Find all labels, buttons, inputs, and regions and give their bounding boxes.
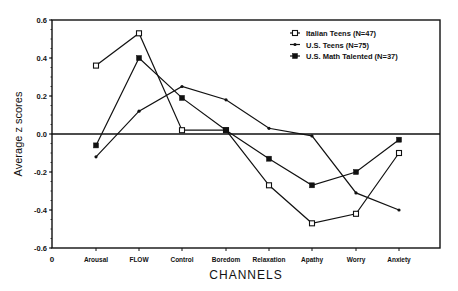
y-tick-label: 0.4 <box>37 54 48 63</box>
y-tick-label: -0.4 <box>34 206 48 215</box>
y-tick-label: -0.6 <box>34 244 47 253</box>
x-tick-label: Worry <box>347 256 366 264</box>
legend-item: U.S. Teens (N=75) <box>290 41 370 50</box>
x-axis-label: CHANNELS <box>209 268 282 282</box>
y-tick-label: 0.0 <box>37 130 47 139</box>
y-tick-label: -0.2 <box>34 168 47 177</box>
x-origin-label: 0 <box>50 255 55 264</box>
legend-item: U.S. Math Talented (N=37) <box>290 52 398 61</box>
x-axis: ArousalFLOWControlBoredomRelaxationApath… <box>84 248 411 264</box>
x-tick-label: Boredom <box>212 256 241 263</box>
y-tick-label: 0.2 <box>37 92 47 101</box>
line-chart: 0.60.40.20.0-0.2-0.4-0.6 ArousalFLOWCont… <box>0 0 458 291</box>
x-tick-label: Apathy <box>301 256 323 264</box>
x-tick-label: Arousal <box>84 256 108 263</box>
series-2 <box>94 56 402 188</box>
x-tick-label: Control <box>170 256 193 263</box>
legend-label: U.S. Teens (N=75) <box>306 41 370 50</box>
legend: Italian Teens (N=47)U.S. Teens (N=75)U.S… <box>290 29 398 61</box>
x-tick-label: FLOW <box>129 256 149 263</box>
y-axis-label: Average z scores <box>12 91 24 176</box>
y-axis: 0.60.40.20.0-0.2-0.4-0.6 <box>34 16 52 253</box>
legend-item: Italian Teens (N=47) <box>290 29 377 38</box>
x-tick-label: Anxiety <box>387 256 411 264</box>
y-tick-label: 0.6 <box>37 16 47 25</box>
series-1 <box>94 85 400 212</box>
x-tick-label: Relaxation <box>253 256 286 263</box>
legend-label: Italian Teens (N=47) <box>306 29 377 38</box>
legend-label: U.S. Math Talented (N=37) <box>306 52 398 61</box>
